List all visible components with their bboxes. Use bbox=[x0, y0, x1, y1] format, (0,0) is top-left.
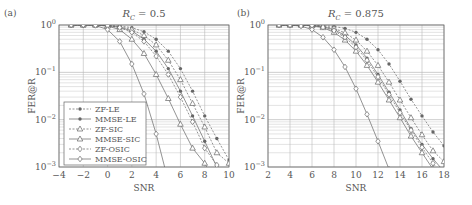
dot-marker-icon bbox=[167, 49, 170, 52]
y-tick-label: 100 bbox=[249, 18, 265, 30]
diamond-marker-icon bbox=[354, 86, 358, 92]
y-axis-label: FER@R bbox=[27, 78, 37, 114]
diamond-marker-icon bbox=[299, 23, 303, 29]
dot-marker-icon bbox=[167, 67, 170, 70]
triangle-marker-icon bbox=[397, 97, 403, 102]
diamond-marker-icon bbox=[178, 94, 182, 100]
series-zf-le bbox=[277, 23, 445, 147]
dot-marker-icon bbox=[203, 140, 206, 143]
diamond-marker-icon bbox=[166, 178, 170, 184]
diamond-marker-icon bbox=[142, 91, 146, 97]
x-tick-label: 6 bbox=[178, 170, 184, 180]
x-tick-label: 8 bbox=[202, 170, 208, 180]
dot-marker-icon bbox=[431, 130, 434, 133]
dot-marker-icon bbox=[420, 114, 423, 117]
dot-marker-icon bbox=[179, 67, 182, 70]
diamond-marker-icon bbox=[203, 145, 207, 151]
x-tick-label: 10 bbox=[350, 170, 362, 180]
dot-marker-icon bbox=[154, 49, 157, 52]
y-tick-label: 10−1 bbox=[244, 65, 265, 77]
legend: ZF-LEMMSE-LEZF-SICMMSE-SICZF-OSICMMSE-OS… bbox=[64, 102, 147, 165]
series-line bbox=[279, 25, 444, 146]
diamond-marker-icon bbox=[130, 61, 134, 67]
x-tick-label: 10 bbox=[223, 170, 235, 180]
x-tick-label: 0 bbox=[105, 170, 111, 180]
y-tick-label: 100 bbox=[40, 18, 56, 30]
diamond-marker-icon bbox=[376, 138, 380, 144]
series-group bbox=[276, 22, 447, 180]
triangle-marker-icon bbox=[386, 79, 392, 84]
dot-marker-icon bbox=[179, 89, 182, 92]
dot-marker-icon bbox=[78, 117, 81, 120]
triangle-marker-icon bbox=[190, 100, 196, 105]
x-tick-label: 12 bbox=[372, 170, 383, 180]
dot-marker-icon bbox=[191, 89, 194, 92]
panel-label: (a) bbox=[4, 8, 16, 18]
panel-b: 2468101214161810010−110−210−3SNRFER@R(b)… bbox=[236, 8, 450, 193]
triangle-marker-icon bbox=[430, 148, 436, 153]
legend-label: ZF-OSIC bbox=[95, 145, 130, 154]
dot-marker-icon bbox=[387, 62, 390, 65]
chart-title: RC = 0.875 bbox=[327, 8, 384, 22]
x-tick-label: 14 bbox=[394, 170, 406, 180]
x-tick-label: 2 bbox=[129, 170, 135, 180]
triangle-marker-icon bbox=[214, 183, 220, 188]
series-zf-sic bbox=[276, 22, 447, 164]
legend-label: MMSE-OSIC bbox=[95, 155, 147, 164]
dot-marker-icon bbox=[431, 157, 434, 160]
legend-label: ZF-SIC bbox=[95, 125, 123, 134]
triangle-marker-icon bbox=[419, 132, 425, 137]
y-axis-label: FER@R bbox=[236, 78, 246, 114]
diamond-marker-icon bbox=[154, 131, 158, 137]
figure: −4−2024681010010−110−210−3SNRFER@R(a)RC … bbox=[0, 0, 472, 205]
triangle-marker-icon bbox=[165, 96, 171, 101]
triangle-marker-icon bbox=[141, 33, 147, 38]
dot-marker-icon bbox=[191, 114, 194, 117]
triangle-marker-icon bbox=[226, 160, 232, 165]
x-tick-label: 4 bbox=[287, 170, 293, 180]
x-tick-label: 16 bbox=[416, 170, 428, 180]
diamond-marker-icon bbox=[93, 23, 97, 29]
series-line bbox=[279, 25, 444, 172]
x-tick-label: 2 bbox=[265, 170, 271, 180]
triangle-marker-icon bbox=[375, 62, 381, 67]
dot-marker-icon bbox=[215, 137, 218, 140]
y-tick-label: 10−2 bbox=[244, 113, 265, 125]
dot-marker-icon bbox=[154, 38, 157, 41]
dot-marker-icon bbox=[78, 107, 81, 110]
dot-marker-icon bbox=[398, 79, 401, 82]
triangle-marker-icon bbox=[408, 115, 414, 120]
x-tick-label: −2 bbox=[77, 170, 90, 180]
triangle-marker-icon bbox=[129, 36, 135, 41]
legend-label: MMSE-LE bbox=[95, 115, 137, 124]
chart-title: RC = 0.5 bbox=[121, 8, 165, 22]
triangle-marker-icon bbox=[202, 124, 208, 129]
triangle-marker-icon bbox=[153, 42, 159, 47]
diamond-marker-icon bbox=[365, 111, 369, 117]
legend-label: MMSE-SIC bbox=[95, 135, 140, 144]
x-axis-label: SNR bbox=[346, 183, 367, 193]
x-tick-label: 6 bbox=[309, 170, 315, 180]
y-tick-label: 10−1 bbox=[35, 65, 56, 77]
x-tick-label: 8 bbox=[331, 170, 337, 180]
triangle-marker-icon bbox=[190, 145, 196, 150]
series-line bbox=[279, 25, 444, 162]
triangle-marker-icon bbox=[214, 150, 220, 155]
panel-label: (b) bbox=[237, 8, 250, 18]
x-tick-label: 18 bbox=[438, 170, 450, 180]
y-tick-label: 10−3 bbox=[244, 160, 265, 172]
dot-marker-icon bbox=[442, 144, 445, 147]
dot-marker-icon bbox=[227, 190, 230, 193]
triangle-marker-icon bbox=[178, 77, 184, 82]
dot-marker-icon bbox=[376, 48, 379, 51]
triangle-marker-icon bbox=[353, 37, 359, 42]
dot-marker-icon bbox=[354, 31, 357, 34]
dot-marker-icon bbox=[203, 114, 206, 117]
legend-label: ZF-LE bbox=[95, 105, 120, 114]
y-tick-label: 10−2 bbox=[35, 113, 56, 125]
dot-marker-icon bbox=[365, 38, 368, 41]
x-tick-label: 4 bbox=[153, 170, 159, 180]
x-axis-label: SNR bbox=[134, 183, 155, 193]
x-tick-label: −4 bbox=[52, 170, 66, 180]
dot-marker-icon bbox=[409, 98, 412, 101]
